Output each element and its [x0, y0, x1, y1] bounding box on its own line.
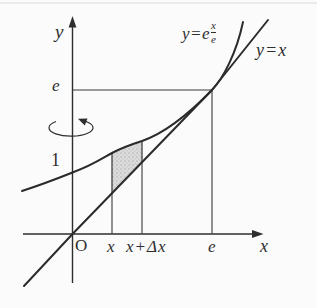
x-tick-e-label: e [208, 238, 216, 255]
y-axis-label: y [55, 22, 63, 41]
y-tick-e-label: e [52, 77, 60, 94]
y-tick-1-label: 1 [51, 151, 60, 169]
rotation-arrowhead [78, 119, 88, 126]
curve-equation-prefix: y=e [182, 24, 210, 43]
curve-equation-label: y=exe [182, 25, 216, 55]
fraction-denominator: e [211, 34, 216, 45]
origin-label: O [75, 237, 87, 254]
fraction-numerator: x [211, 20, 216, 31]
x-tick-x-label: x [107, 238, 115, 255]
math-figure: y e 1 O x x+Δx e x y=exe y=x [0, 0, 317, 308]
x-axis-label: x [260, 237, 268, 255]
x-tick-x-plus-dx-label: x+Δx [126, 238, 167, 255]
rotation-arc [49, 121, 93, 136]
rotation-arrow-icon [49, 119, 93, 137]
line-equation-label: y=x [256, 41, 287, 59]
y-axis-arrow-icon [69, 16, 77, 28]
curve-equation-exponent-fraction: xe [211, 20, 216, 45]
